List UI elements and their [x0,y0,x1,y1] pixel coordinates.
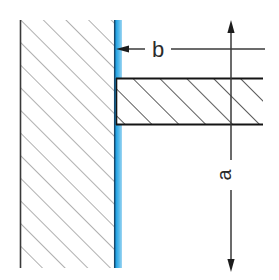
membrane-fill [115,20,122,268]
dimension-label-b: b [152,37,164,62]
vertical-dimension-group: a [213,20,235,272]
dimension-label-a: a [213,169,235,181]
technical-diagram: b a [0,0,279,280]
vertical-dimension-arrow-top [227,20,234,33]
blue-membrane-layer [115,20,122,268]
beam-section [116,78,263,125]
diagram-canvas: b a [0,0,279,280]
wall-hatching [20,20,115,268]
vertical-dimension-arrow-bottom [227,259,234,272]
dimension-b-group: b [116,37,265,62]
beam-hatching [116,78,263,125]
wall-section [20,20,115,268]
